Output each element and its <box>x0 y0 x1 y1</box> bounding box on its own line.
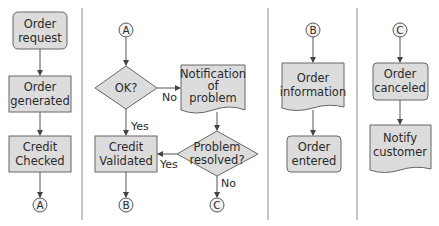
node-label: Problem <box>193 140 240 154</box>
connector-c-out: C <box>210 198 224 212</box>
connector-b-out: B <box>119 198 133 212</box>
node-credit-validated: Credit Validated <box>95 136 157 172</box>
node-label: Checked <box>15 154 64 168</box>
node-label: Order <box>298 140 331 154</box>
node-label: customer <box>373 145 427 159</box>
node-label: Order <box>384 67 417 81</box>
connector-label: A <box>122 24 130 36</box>
connector-label: A <box>36 199 44 211</box>
connector-label: B <box>122 199 129 211</box>
node-label: Order <box>24 17 57 31</box>
node-label: Notify <box>383 131 417 145</box>
edge-label-no: No <box>221 177 236 190</box>
node-label: Order <box>24 80 57 94</box>
node-label: request <box>18 31 62 45</box>
node-order-canceled: Order canceled <box>373 63 428 100</box>
node-ok-decision: OK? <box>95 66 157 109</box>
node-order-generated: Order generated <box>9 76 71 112</box>
node-notification-of-problem: Notification of problem <box>180 65 246 113</box>
node-label: Validated <box>99 154 153 168</box>
node-label: canceled <box>374 81 426 95</box>
node-label: information <box>280 85 346 99</box>
node-label: resolved? <box>189 153 244 167</box>
connector-label: B <box>309 24 316 36</box>
node-order-request: Order request <box>13 12 67 49</box>
connector-b-in: B <box>306 23 320 37</box>
edge-label-yes: Yes <box>130 120 149 133</box>
connector-label: C <box>396 24 403 36</box>
node-label: generated <box>10 94 69 108</box>
node-label: Credit <box>109 140 144 154</box>
node-credit-checked: Credit Checked <box>9 136 71 172</box>
node-notify-customer: Notify customer <box>370 125 431 173</box>
node-order-information: Order information <box>280 63 346 111</box>
connector-label: C <box>213 199 220 211</box>
flowchart-diagram: Order request Order generated Credit Che… <box>0 0 439 226</box>
node-problem-resolved: Problem resolved? <box>177 131 258 176</box>
node-order-entered: Order entered <box>287 136 341 172</box>
node-label: Credit <box>23 140 58 154</box>
edge-label-yes: Yes <box>159 158 178 171</box>
connector-a-out: A <box>33 198 47 212</box>
node-label: OK? <box>115 81 138 95</box>
edge-label-no: No <box>162 91 177 104</box>
connector-c-in: C <box>393 23 407 37</box>
node-label: entered <box>292 154 337 168</box>
connector-a-in: A <box>119 23 133 37</box>
node-label: problem <box>189 91 237 105</box>
node-label: Order <box>297 71 330 85</box>
